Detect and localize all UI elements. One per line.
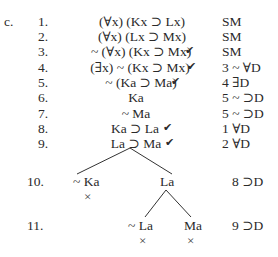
closed-branch-icon: ×	[187, 234, 194, 247]
justification: 9 ⊃D	[232, 219, 263, 233]
justification: 8 ⊃D	[232, 175, 263, 189]
row-number: 11.	[27, 219, 43, 233]
closed-branch-icon: ×	[139, 234, 146, 247]
branch-left-formula: ~ Ka	[73, 175, 99, 189]
branch-right-formula: Ma	[184, 219, 202, 233]
row-number: 10.	[27, 175, 44, 189]
branch-left-formula: ~ La	[128, 219, 153, 233]
closed-branch-icon: ×	[84, 190, 91, 203]
branch-right-formula: La	[160, 175, 174, 189]
